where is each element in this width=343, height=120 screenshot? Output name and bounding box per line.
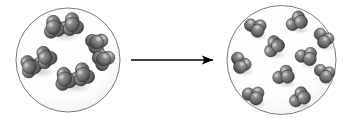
reaction-diagram xyxy=(0,0,343,120)
particulate-diagram-canvas xyxy=(0,0,343,120)
